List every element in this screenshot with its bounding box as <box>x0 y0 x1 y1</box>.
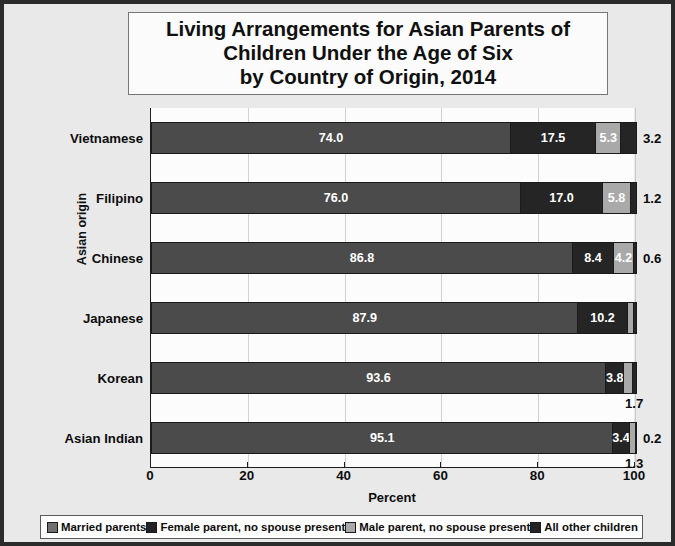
segment-value-label: 3.4 <box>612 432 630 445</box>
bar-row: Korean93.63.81.7 <box>151 348 634 408</box>
legend-label: Female parent, no spouse present <box>160 521 345 533</box>
legend-item[interactable]: All other children <box>530 521 638 533</box>
segment-value-label: 4.2 <box>615 252 633 265</box>
bar-segment[interactable]: 3.4 <box>612 423 628 453</box>
bar-segment[interactable] <box>635 423 636 453</box>
bar-segment[interactable]: 4.2 <box>613 243 633 273</box>
x-tick-mark <box>150 462 151 468</box>
segment-value-label: 10.2 <box>590 312 615 325</box>
segment-value-label: 3.8 <box>606 372 624 385</box>
x-tick-label: 20 <box>239 468 254 483</box>
segment-value-label: 74.0 <box>319 132 344 145</box>
category-label: Korean <box>98 371 143 386</box>
bar-segment[interactable]: 8.4 <box>572 243 613 273</box>
bar-segment[interactable]: 3.8 <box>605 363 623 393</box>
bar-row: Chinese86.88.44.20.6 <box>151 228 634 288</box>
segment-value-label: 93.6 <box>366 372 391 385</box>
segment-value-label: 95.1 <box>370 432 395 445</box>
category-label: Chinese <box>92 251 143 266</box>
x-axis-ticks: 020406080100 <box>150 468 634 490</box>
plot-area: Vietnamese74.017.55.33.2Filipino76.017.0… <box>150 108 634 468</box>
bar-segment[interactable] <box>633 243 636 273</box>
segment-value-label: 8.4 <box>584 252 602 265</box>
page-title-line-2: Children Under the Age of Six <box>135 41 601 65</box>
stacked-bar[interactable]: 86.88.44.2 <box>151 242 637 274</box>
gridline <box>635 108 636 467</box>
bar-segment[interactable]: 95.1 <box>152 423 612 453</box>
bar-segment[interactable]: 10.2 <box>577 303 626 333</box>
bar-segment[interactable]: 87.9 <box>152 303 577 333</box>
bar-segment[interactable]: 5.3 <box>595 123 621 153</box>
legend-label: All other children <box>544 521 638 533</box>
category-label: Vietnamese <box>70 131 143 146</box>
bar-segment[interactable] <box>632 363 636 393</box>
bar-segment[interactable]: 86.8 <box>152 243 572 273</box>
x-tick-label: 80 <box>530 468 545 483</box>
chart-legend: Married parentsFemale parent, no spouse … <box>40 515 643 539</box>
bar-rows: Vietnamese74.017.55.33.2Filipino76.017.0… <box>151 108 634 467</box>
bar-segment[interactable] <box>620 123 635 153</box>
segment-value-label: 87.9 <box>352 312 377 325</box>
category-label: Filipino <box>96 191 143 206</box>
stacked-bar[interactable]: 74.017.55.3 <box>151 122 637 154</box>
segment-value-label-outside: 3.2 <box>643 131 661 146</box>
x-tick-mark <box>344 462 345 468</box>
stacked-bar[interactable]: 87.910.2 <box>151 302 637 334</box>
bar-segment[interactable] <box>623 363 631 393</box>
segment-value-label: 5.8 <box>608 192 626 205</box>
stacked-bar[interactable]: 76.017.05.8 <box>151 182 637 214</box>
bar-segment[interactable]: 74.0 <box>152 123 510 153</box>
segment-value-label: 17.5 <box>541 132 566 145</box>
page-title-line-3: by Country of Origin, 2014 <box>135 65 601 89</box>
stacked-bar[interactable]: 93.63.8 <box>151 362 637 394</box>
bar-segment[interactable]: 17.5 <box>510 123 595 153</box>
x-axis-title: Percent <box>150 490 634 505</box>
x-tick-mark <box>247 462 248 468</box>
bar-segment[interactable]: 76.0 <box>152 183 520 213</box>
segment-value-label: 86.8 <box>350 252 375 265</box>
legend-label: Married parents <box>61 521 146 533</box>
bar-segment[interactable]: 93.6 <box>152 363 605 393</box>
x-tick-label: 60 <box>433 468 448 483</box>
segment-value-label: 76.0 <box>324 192 349 205</box>
segment-value-label-outside: 0.2 <box>643 431 661 446</box>
x-tick-label: 0 <box>146 468 153 483</box>
x-tick-mark <box>537 462 538 468</box>
legend-swatch-icon <box>530 522 541 533</box>
chart-title-box: Living Arrangements for Asian Parents of… <box>128 12 608 95</box>
legend-swatch-icon <box>146 522 157 533</box>
legend-label: Male parent, no spouse present <box>359 521 530 533</box>
segment-value-label-outside: 0.6 <box>643 251 661 266</box>
bar-segment[interactable] <box>633 303 636 333</box>
legend-item[interactable]: Male parent, no spouse present <box>345 521 530 533</box>
y-axis-title: Asian origin <box>75 159 89 299</box>
bar-segment[interactable] <box>630 183 636 213</box>
segment-value-label: 5.3 <box>599 132 617 145</box>
legend-item[interactable]: Female parent, no spouse present <box>146 521 345 533</box>
bar-segment[interactable]: 17.0 <box>520 183 602 213</box>
bar-row: Asian Indian95.13.40.21.3 <box>151 408 634 468</box>
x-tick-label: 40 <box>336 468 351 483</box>
chart-figure: Living Arrangements for Asian Parents of… <box>0 0 675 546</box>
segment-value-label: 17.0 <box>549 192 574 205</box>
bar-row: Filipino76.017.05.81.2 <box>151 168 634 228</box>
category-label: Japanese <box>83 311 143 326</box>
page-title-line-1: Living Arrangements for Asian Parents of <box>135 17 601 41</box>
category-label: Asian Indian <box>65 431 143 446</box>
bar-row: Vietnamese74.017.55.33.2 <box>151 108 634 168</box>
segment-value-label-outside: 1.2 <box>643 191 661 206</box>
x-tick-mark <box>634 462 635 468</box>
legend-item[interactable]: Married parents <box>47 521 146 533</box>
x-tick-label: 100 <box>623 468 645 483</box>
bar-row: Japanese87.910.2 <box>151 288 634 348</box>
stacked-bar[interactable]: 95.13.4 <box>151 422 637 454</box>
x-tick-mark <box>440 462 441 468</box>
legend-swatch-icon <box>345 522 356 533</box>
bar-segment[interactable]: 5.8 <box>602 183 630 213</box>
legend-swatch-icon <box>47 522 58 533</box>
